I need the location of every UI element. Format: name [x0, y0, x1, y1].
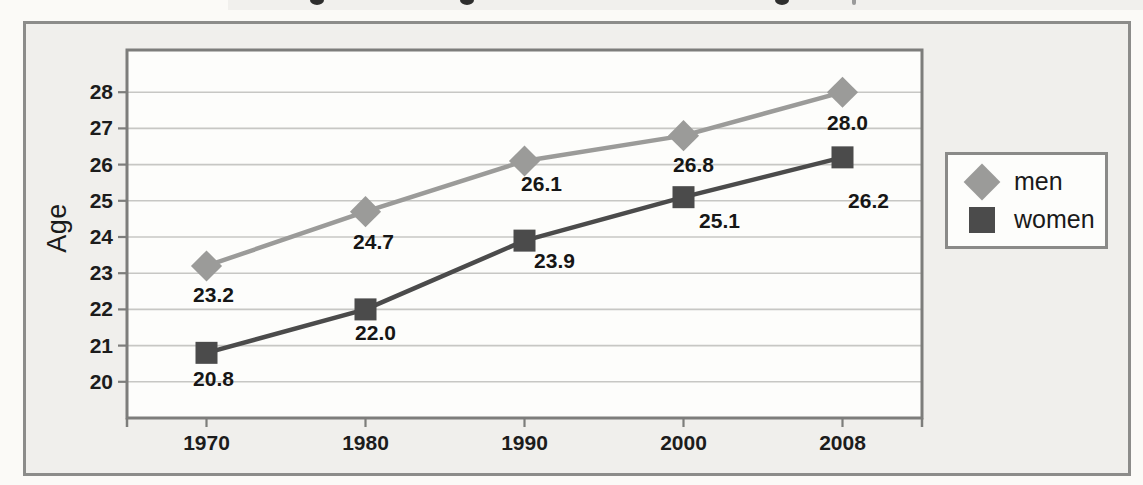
x-tick-label: 2000: [660, 431, 707, 454]
data-label-men: 26.1: [521, 172, 562, 195]
men-diamond-marker-icon: [964, 163, 1001, 200]
legend-entry-women: women: [964, 205, 1105, 234]
y-tick-label: 23: [90, 261, 113, 284]
y-tick-label: 26: [90, 153, 113, 176]
y-tick-label: 22: [90, 297, 113, 320]
data-label-women: 26.2: [848, 189, 889, 212]
data-label-women: 22.0: [355, 321, 396, 344]
y-tick-label: 24: [90, 225, 114, 248]
legend-entry-men: men: [964, 167, 1105, 196]
y-tick-label: 25: [90, 189, 114, 212]
data-point-women: [196, 342, 218, 364]
data-label-men: 26.8: [673, 153, 714, 176]
data-label-women: 23.9: [534, 249, 575, 272]
x-tick-label: 1990: [501, 431, 548, 454]
chart-legend: men women: [945, 152, 1108, 249]
y-tick-label: 28: [90, 80, 114, 103]
data-point-women: [355, 298, 377, 320]
y-tick-label: 21: [90, 334, 114, 357]
x-tick-label: 2008: [819, 431, 866, 454]
data-point-women: [673, 186, 695, 208]
data-label-men: 28.0: [827, 111, 868, 134]
x-tick-label: 1970: [183, 431, 230, 454]
data-label-women: 25.1: [699, 209, 740, 232]
data-label-men: 24.7: [353, 230, 394, 253]
y-axis-title: Age: [42, 203, 73, 253]
legend-label-women: women: [1014, 205, 1095, 234]
data-label-men: 23.2: [193, 283, 234, 306]
x-tick-label: 1980: [342, 431, 389, 454]
y-tick-label: 20: [90, 370, 113, 393]
data-label-women: 20.8: [193, 367, 234, 390]
data-point-women: [514, 230, 536, 252]
y-tick-label: 27: [90, 116, 113, 139]
data-point-women: [832, 146, 854, 168]
women-square-marker-icon: [969, 207, 995, 233]
legend-label-men: men: [1014, 167, 1063, 196]
